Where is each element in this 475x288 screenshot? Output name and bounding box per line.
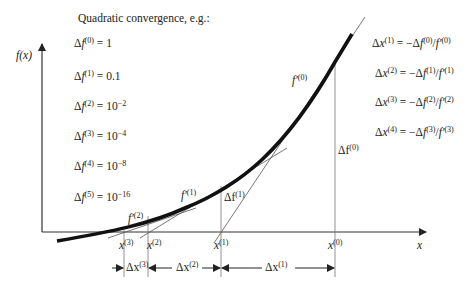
y-axis-label: f(x) xyxy=(16,50,32,62)
update-formula-1: Δx(1) = −Δf(0)/f′(0) xyxy=(372,38,451,50)
iterate-label-x0: x(0) xyxy=(328,240,342,252)
derivative-label-0: f′(0) xyxy=(292,75,307,87)
delta-f-value-5: Δf(5) = 10−16 xyxy=(74,192,130,204)
delta-f-value-3: Δf(3) = 10−4 xyxy=(74,131,126,143)
delta-x-label-3: Δx(3) xyxy=(126,262,148,274)
x-axis-label: x xyxy=(417,240,422,252)
update-formula-2: Δx(2) = −Δf(1)/f′(1) xyxy=(375,68,454,80)
update-formula-4: Δx(4) = −Δf(3)/f′(3) xyxy=(375,127,454,139)
delta-x-label-2: Δx(2) xyxy=(176,262,198,274)
delta-x-label-1: Δx(1) xyxy=(265,262,287,274)
delta-f-value-2: Δf(2) = 10−2 xyxy=(74,101,126,113)
tangent-line-2 xyxy=(108,208,196,238)
iterate-label-x3: x(3) xyxy=(119,240,133,252)
delta-f-value-0: Δf(0) = 1 xyxy=(74,38,112,50)
update-formula-3: Δx(3) = −Δf(2)/f′(2) xyxy=(375,97,454,109)
delta-f-value-4: Δf(4) = 10−8 xyxy=(74,161,126,173)
diagram-title: Quadratic convergence, e.g.: xyxy=(78,13,210,25)
iterate-label-x1: x(1) xyxy=(214,240,228,252)
delta-f-plot-label-0: Δf(0) xyxy=(338,145,359,157)
iterate-label-x2: x(2) xyxy=(147,240,161,252)
derivative-label-1: f′(1) xyxy=(181,190,196,202)
delta-f-value-1: Δf(1) = 0.1 xyxy=(74,71,121,83)
delta-f-plot-label-1: Δf(1) xyxy=(224,192,245,204)
derivative-label-2: f′(2) xyxy=(128,213,143,225)
